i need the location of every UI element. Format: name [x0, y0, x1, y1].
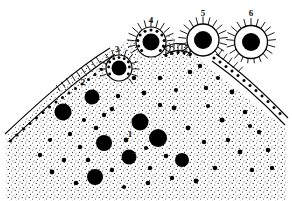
stage-label-1: 1 — [128, 129, 133, 139]
nucleocapsid — [175, 153, 189, 167]
stage-label-4: 4 — [149, 15, 154, 25]
nucleocapsid — [132, 114, 149, 131]
nucleocapsid — [85, 90, 100, 105]
stage-label-6: 6 — [249, 8, 254, 18]
nucleocapsid — [87, 169, 103, 185]
stage-label-3: 3 — [115, 44, 120, 54]
bud-3-nucleocapsid — [112, 61, 127, 76]
nucleocapsid — [122, 150, 137, 165]
stage-label-2: 2 — [81, 77, 86, 87]
virion-5-nucleocapsid — [194, 31, 212, 49]
nucleocapsid — [149, 129, 167, 147]
viral-budding-figure: 1 2 3 4 5 6 — [0, 0, 292, 201]
figure-canvas: 1 2 3 4 5 6 — [0, 0, 292, 201]
stage-label-5: 5 — [201, 8, 206, 18]
nucleocapsid — [55, 104, 72, 121]
virion-stage-6 — [227, 19, 276, 63]
bud-4-nucleocapsid — [143, 34, 160, 51]
nucleocapsid — [96, 135, 112, 151]
virion-6-nucleocapsid — [242, 33, 260, 51]
